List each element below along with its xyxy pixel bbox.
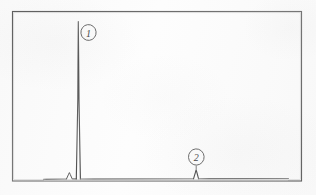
signal-trace-group (44, 22, 289, 181)
chromatogram-figure: 1 2 (0, 0, 316, 195)
border-rectangle (13, 12, 302, 182)
peak-label-two: 2 (188, 148, 205, 169)
shoulder-peak (67, 173, 77, 179)
peak-label-one: 1 (80, 24, 97, 41)
plot-border-frame (13, 12, 302, 182)
chromatogram-plot: 1 2 (0, 0, 316, 195)
peak-one-trace (76, 22, 80, 179)
peak-two-trace (194, 170, 199, 179)
peak-label-one-text: 1 (86, 28, 91, 39)
peak-label-two-text: 2 (194, 152, 199, 163)
border-inner-ghost (14, 13, 300, 180)
